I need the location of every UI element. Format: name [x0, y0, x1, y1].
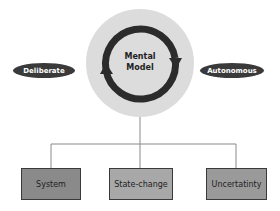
state-change-box: State-change	[109, 168, 173, 200]
mental-model-diagram: Mental Model Deliberate Autonomous Syste…	[0, 0, 280, 211]
uncertainty-box: Uncertatinty	[206, 168, 267, 200]
center-label-line2: Model	[110, 62, 170, 73]
center-label-line1: Mental	[110, 51, 170, 62]
autonomous-pill: Autonomous	[200, 63, 264, 78]
deliberate-pill: Deliberate	[13, 63, 75, 78]
center-label: Mental Model	[110, 51, 170, 73]
system-box: System	[21, 168, 81, 200]
connector-lines	[51, 117, 236, 168]
